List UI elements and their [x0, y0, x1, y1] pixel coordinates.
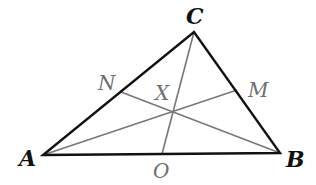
label-O: O: [153, 159, 169, 183]
label-N: N: [97, 71, 117, 95]
label-M: M: [247, 78, 269, 102]
label-B: B: [285, 146, 305, 172]
label-A: A: [17, 145, 36, 171]
triangle-diagram: C A B N M X O: [0, 0, 316, 185]
label-C: C: [186, 3, 204, 29]
label-X: X: [153, 81, 170, 105]
